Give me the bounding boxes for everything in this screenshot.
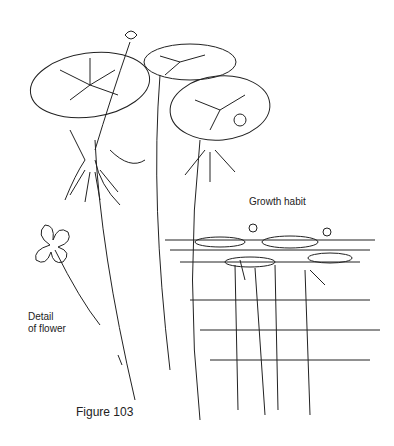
detail-label-line2: of flower (28, 323, 66, 335)
signature-mark (118, 355, 122, 365)
detail-label-line1: Detail (28, 311, 54, 323)
botanical-illustration (0, 0, 394, 446)
growth-habit-label: Growth habit (249, 196, 306, 208)
roots (70, 150, 235, 202)
stems (65, 42, 200, 420)
floating-leaf-top (144, 44, 236, 80)
floating-leaf-left (26, 45, 154, 125)
flower-detail (36, 225, 100, 325)
figure-caption: Figure 103 (76, 405, 133, 419)
flower-bud (125, 31, 137, 39)
floating-leaf-right (167, 72, 272, 144)
